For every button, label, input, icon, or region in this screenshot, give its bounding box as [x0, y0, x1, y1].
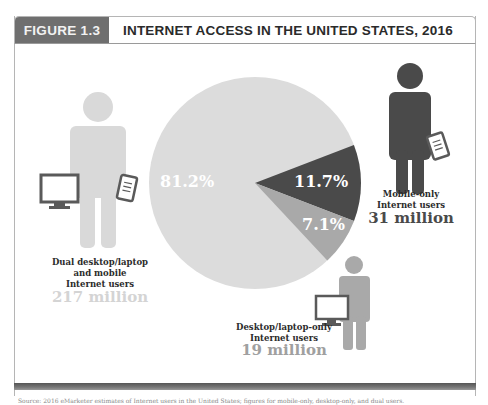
dual-user-person-icon [70, 92, 126, 248]
pct-label-dual: 81.2% [160, 172, 214, 191]
dual-group-value: 217 million [38, 289, 162, 306]
figure-source-note: Source: 2016 eMarketer estimates of Inte… [18, 397, 404, 404]
dual-user-tablet-icon [117, 175, 138, 202]
desktop-only-label-line1: Desktop/laptop-only [228, 322, 340, 333]
mobile-only-person-icon [389, 63, 431, 194]
dual-user-desktop-icon [41, 175, 78, 209]
desktop-only-group-value: 19 million [228, 342, 340, 359]
dual-label-line1: Dual desktop/laptop [38, 257, 162, 268]
pct-label-mobile-only: 11.7% [294, 172, 348, 191]
dual-group-label: Dual desktop/laptop and mobile Internet … [38, 257, 162, 290]
dual-label-line2: and mobile [38, 268, 162, 279]
mobile-only-label-line1: Mobile-only [366, 189, 456, 200]
mobile-only-group-label: Mobile-only Internet users [366, 189, 456, 211]
pct-label-desktop-only: 7.1% [302, 215, 345, 234]
mobile-only-group-value: 31 million [356, 210, 466, 227]
figure-bottom-bar [14, 383, 476, 390]
